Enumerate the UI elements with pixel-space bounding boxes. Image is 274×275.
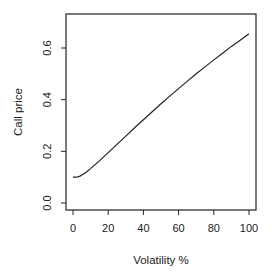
x-tick-label: 100: [240, 222, 258, 234]
y-axis-label: Call price: [12, 88, 24, 136]
x-tick-label: 80: [208, 222, 220, 234]
line-chart: 020406080100 0.00.20.40.6 Volatility % C…: [0, 0, 274, 275]
x-axis: 020406080100: [70, 210, 258, 234]
y-axis: 0.00.20.40.6: [41, 40, 66, 210]
x-tick-label: 60: [172, 222, 184, 234]
x-tick-label: 20: [102, 222, 114, 234]
y-tick-label: 0.6: [41, 40, 53, 55]
y-tick-label: 0.0: [41, 195, 53, 210]
x-axis-label: Volatility %: [133, 254, 189, 266]
call-price-line: [73, 34, 249, 177]
x-tick-label: 0: [70, 222, 76, 234]
y-tick-label: 0.4: [41, 92, 53, 107]
y-tick-label: 0.2: [41, 144, 53, 159]
x-tick-label: 40: [137, 222, 149, 234]
plot-frame: [66, 14, 256, 210]
